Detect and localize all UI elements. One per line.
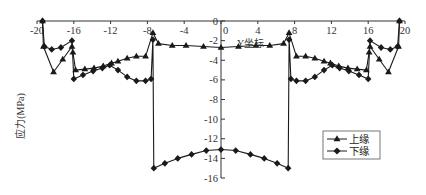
diamond-marker-icon (387, 46, 393, 53)
triangle-marker-icon (155, 40, 162, 46)
x-tick-label: -16 (67, 25, 81, 36)
diamond-marker-icon (356, 72, 362, 79)
diamond-marker-icon (188, 151, 194, 158)
x-tick-label: 0 (223, 25, 228, 36)
y-tick-label: -16 (204, 173, 218, 184)
x-tick-label: 4 (255, 25, 261, 36)
x-axis-title: Y坐标 (237, 38, 264, 49)
diamond-marker-icon (321, 67, 327, 74)
diamond-marker-icon (396, 18, 402, 25)
triangle-marker-icon (293, 53, 300, 59)
y-tick-label: -14 (204, 153, 219, 164)
stress-line-chart: -20-16-12-8-40481216200-2-4-6-8-10-12-14… (0, 0, 426, 195)
diamond-marker-icon (39, 18, 45, 25)
triangle-marker-icon (142, 53, 149, 59)
diamond-marker-icon (274, 160, 280, 167)
diamond-marker-icon (367, 37, 373, 44)
diamond-marker-icon (302, 77, 308, 84)
legend-label-lower: 下缘 (349, 145, 370, 157)
triangle-marker-icon (183, 42, 190, 48)
y-tick-label: -8 (209, 94, 218, 105)
diamond-marker-icon (80, 72, 86, 79)
diamond-marker-icon (49, 46, 55, 53)
y-tick-label: -4 (209, 55, 218, 66)
y-tick-label: -12 (204, 133, 218, 144)
x-tick-label: 12 (326, 25, 337, 36)
diamond-marker-icon (151, 165, 157, 172)
x-tick-label: 8 (292, 25, 297, 36)
x-tick-label: -4 (180, 25, 189, 36)
x-tick-label: -12 (104, 25, 118, 36)
diamond-marker-icon (365, 75, 371, 82)
x-tick-label: -20 (30, 25, 44, 36)
diamond-marker-icon (71, 75, 77, 82)
x-tick-label: 20 (400, 25, 411, 36)
diamond-marker-icon (58, 44, 64, 51)
diamond-marker-icon (162, 160, 168, 167)
diamond-marker-icon (142, 77, 148, 84)
diamond-marker-icon (115, 67, 121, 74)
diamond-marker-icon (378, 44, 384, 51)
diamond-marker-icon (233, 147, 239, 154)
x-tick-label: 16 (363, 25, 374, 36)
y-tick-label: 0 (213, 16, 218, 27)
triangle-marker-icon (200, 43, 207, 49)
diamond-marker-icon (261, 155, 267, 162)
legend: 上缘 下缘 (323, 131, 380, 159)
diamond-marker-icon (41, 43, 47, 50)
y-tick-label: -2 (209, 35, 218, 46)
y-axis-title: 应力(MPa) (14, 93, 27, 139)
diamond-marker-icon (133, 77, 139, 84)
diamond-marker-icon (247, 151, 253, 158)
diamond-marker-icon (175, 155, 181, 162)
diamond-marker-icon (69, 37, 75, 44)
y-tick-label: -10 (204, 114, 218, 125)
diamond-marker-icon (218, 146, 224, 153)
y-tick-label: -6 (209, 74, 218, 85)
triangle-marker-icon (302, 53, 309, 59)
legend-label-upper: 上缘 (349, 133, 370, 145)
diamond-marker-icon (285, 165, 291, 172)
triangle-marker-icon (280, 40, 287, 46)
diamond-marker-icon (394, 43, 400, 50)
diamond-marker-icon (293, 77, 299, 84)
triangle-marker-icon (133, 53, 140, 59)
triangle-marker-icon (218, 44, 225, 50)
